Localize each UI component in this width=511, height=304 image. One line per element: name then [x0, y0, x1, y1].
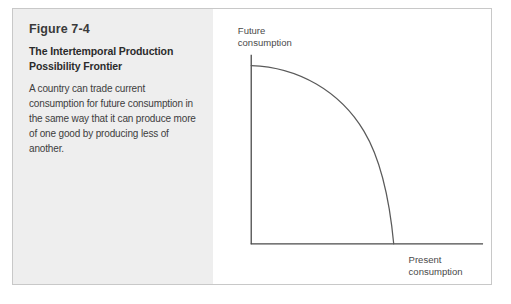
figure-description: A country can trade current consumption …: [29, 81, 201, 157]
ppf-chart: Future consumption Present consumption: [213, 9, 491, 284]
figure-caption-column: Figure 7-4 The Intertemporal Production …: [13, 9, 213, 284]
y-axis-label-line2: consumption: [238, 37, 292, 48]
figure-number: Figure 7-4: [29, 23, 201, 37]
figure-title: The Intertemporal Production Possibility…: [29, 44, 197, 74]
figure-container: Figure 7-4 The Intertemporal Production …: [12, 8, 492, 285]
chart-panel: Future consumption Present consumption: [213, 9, 491, 284]
x-axis-label-line1: Present: [409, 254, 442, 265]
y-axis-label-line1: Future: [238, 25, 266, 36]
ppf-curve: [251, 66, 393, 244]
x-axis-label-line2: consumption: [409, 266, 463, 277]
